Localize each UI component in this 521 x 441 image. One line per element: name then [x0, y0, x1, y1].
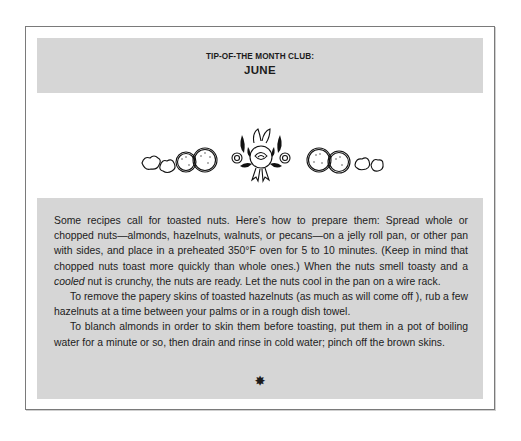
paragraph-blanch-almonds: To blanch almonds in order to skin them … — [54, 319, 468, 349]
tip-card: TIP-OF-THE MONTH CLUB: JUNE — [25, 26, 495, 410]
emphasis-cooled: cooled — [54, 276, 85, 287]
end-mark-icon: ✸ — [37, 374, 483, 388]
floral-nut-ornament-icon — [136, 121, 386, 191]
header-kicker: TIP-OF-THE MONTH CLUB: — [37, 52, 483, 61]
header-title: JUNE — [37, 64, 483, 76]
tip-body-panel: Some recipes call for toasted nuts. Here… — [37, 198, 483, 399]
paragraph-toasting: Some recipes call for toasted nuts. Here… — [54, 213, 468, 289]
tip-text: Some recipes call for toasted nuts. Here… — [54, 213, 468, 350]
paragraph-hazelnut-skins: To remove the papery skins of toasted ha… — [54, 289, 468, 319]
header-banner: TIP-OF-THE MONTH CLUB: JUNE — [37, 38, 483, 93]
